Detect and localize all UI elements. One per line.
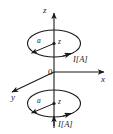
lower-loop-radius-label: a — [37, 97, 41, 105]
lower-loop-radius-arrow — [32, 102, 56, 113]
figure-vector-graphics — [0, 0, 113, 134]
upper-loop-current-label: I[A] — [73, 55, 88, 64]
upper-loop-radius-label: a — [37, 37, 41, 45]
coil-axes-figure: z x y 0 a z I[A] a z I[A] — [0, 0, 113, 134]
lower-loop-height-label: z — [58, 98, 61, 106]
x-axis-label: x — [101, 75, 105, 84]
lower-loop-current-label: I[A] — [58, 120, 73, 129]
upper-loop-height-label: z — [58, 38, 61, 46]
origin-label: 0 — [48, 68, 53, 77]
upper-loop-radius-arrow — [32, 42, 56, 53]
z-axis-label: z — [43, 6, 47, 15]
y-axis-label: y — [11, 93, 15, 102]
